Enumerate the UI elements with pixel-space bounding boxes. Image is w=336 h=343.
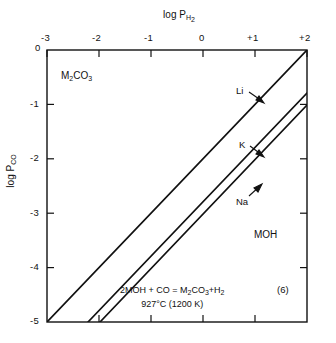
curve-label-na: Na <box>236 196 248 207</box>
eqn-part-c: +H <box>209 285 221 295</box>
figure-container: log PH2 log PCO -3 -2 -1 0 +1 +2 0 -1 -2… <box>0 0 336 343</box>
figure-number-label: (6) <box>277 284 289 295</box>
eqn-part-b: CO <box>191 285 205 295</box>
curve-label-li: Li <box>236 85 243 96</box>
reaction-equation: 2MOH + CO = M2CO3+H2 927°C (1200 K) <box>120 284 225 311</box>
region-label-carbonate-co: CO <box>73 70 88 81</box>
x-axis-ticks <box>47 50 307 57</box>
region-label-hydroxide: MOH <box>254 229 277 240</box>
eqn-part-a: 2MOH + CO = M <box>120 285 188 295</box>
right-axis-ticks <box>300 104 307 267</box>
bottom-axis-ticks <box>99 315 255 322</box>
curve-line-li <box>47 50 307 322</box>
region-label-carbonate: M2CO3 <box>61 70 92 82</box>
region-label-carbonate-sub2: 3 <box>88 75 92 82</box>
y-axis-ticks <box>47 104 54 267</box>
curve-label-k: K <box>239 139 245 150</box>
eqn-sub-3: 2 <box>221 289 225 296</box>
reaction-conditions: 927°C (1200 K) <box>120 298 225 311</box>
reaction-equation-line1: 2MOH + CO = M2CO3+H2 <box>120 284 225 298</box>
